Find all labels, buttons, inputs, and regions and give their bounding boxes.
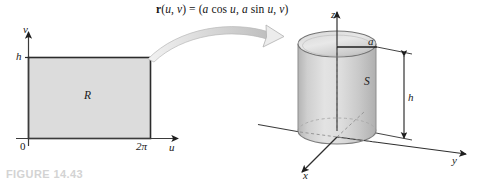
surface-S-label: S	[364, 76, 370, 88]
x-axis-label: x	[303, 170, 308, 181]
mapping-arrow-head	[263, 25, 284, 47]
y-axis-negative-stub	[258, 125, 300, 133]
origin-label: 0	[20, 141, 26, 152]
z-axis-label: z	[331, 9, 335, 20]
cylinder-group	[258, 12, 466, 172]
figure-caption: FIGURE 14.43	[6, 168, 83, 180]
figure-container: r(u, v) = (a cos u, a sin u, v)	[0, 0, 481, 192]
radius-a-label: a	[368, 36, 374, 47]
height-lower-extension	[376, 133, 412, 140]
mapping-arrow-body	[148, 27, 272, 62]
two-pi-tick-label: 2π	[136, 141, 147, 152]
y-axis-label: y	[452, 155, 457, 166]
h-tick-label: h	[16, 51, 22, 62]
height-upper-extension	[377, 47, 412, 54]
mapping-arrow-group	[148, 25, 284, 62]
v-axis-label: v	[23, 24, 28, 35]
uv-domain-group	[16, 32, 178, 146]
height-h-label: h	[408, 92, 414, 103]
region-R-label: R	[84, 90, 91, 102]
u-axis-label: u	[169, 142, 175, 153]
